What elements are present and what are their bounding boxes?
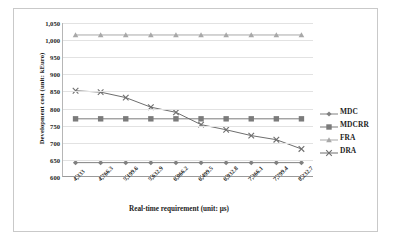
y-tick-label: 600 <box>26 174 60 181</box>
y-tick-label: 900 <box>26 71 60 78</box>
series-fra <box>73 32 305 37</box>
data-point-marker <box>299 146 305 152</box>
y-tick-label: 950 <box>26 54 60 61</box>
legend-item-mdcrr[interactable]: MDCRR <box>319 118 381 131</box>
y-tick-label: 1,050 <box>26 20 60 27</box>
y-tick-label: 650 <box>26 156 60 163</box>
plot-area <box>62 23 313 177</box>
y-tick-label: 700 <box>26 139 60 146</box>
y-tick-label: 1,000 <box>26 37 60 44</box>
data-point-marker <box>326 111 331 116</box>
legend-item-dra[interactable]: DRA <box>319 144 381 157</box>
legend-item-mdc[interactable]: MDC <box>319 105 381 118</box>
chart-frame: Development cost (unit: kEuro) 600650700… <box>13 8 378 232</box>
gridline <box>63 126 313 127</box>
data-point-marker <box>198 116 203 121</box>
legend-marker-icon <box>319 145 339 157</box>
series-canvas <box>63 23 314 177</box>
x-axis-title: Real-time requirement (unit: μs) <box>54 205 304 213</box>
series-line <box>76 91 302 149</box>
legend-label: MDCRR <box>340 120 369 129</box>
gridline <box>63 40 313 41</box>
legend-label: FRA <box>340 133 356 142</box>
data-point-marker <box>148 116 153 121</box>
data-point-marker <box>73 116 78 121</box>
y-tick-label: 750 <box>26 122 60 129</box>
gridline <box>63 23 313 24</box>
legend-label: DRA <box>340 146 356 155</box>
legend-marker-icon <box>319 119 339 131</box>
y-axis-tick-labels: 6006507007508008509009501,0001,050 <box>26 23 60 177</box>
data-point-marker <box>249 116 254 121</box>
gridline <box>63 160 313 161</box>
data-point-marker <box>274 116 279 121</box>
data-point-marker <box>299 116 304 121</box>
data-point-marker <box>123 116 128 121</box>
data-point-marker <box>98 116 103 121</box>
data-point-marker <box>326 124 331 129</box>
chart-legend: MDCMDCRRFRADRA <box>319 105 381 157</box>
legend-marker-icon <box>319 132 339 144</box>
data-point-marker <box>173 116 178 121</box>
y-tick-label: 800 <box>26 105 60 112</box>
legend-marker-icon <box>319 106 339 118</box>
gridline <box>63 143 313 144</box>
legend-item-fra[interactable]: FRA <box>319 131 381 144</box>
gridline <box>63 57 313 58</box>
data-point-marker <box>223 116 228 121</box>
gridline <box>63 91 313 92</box>
y-tick-label: 850 <box>26 88 60 95</box>
legend-label: MDC <box>340 107 358 116</box>
gridline <box>63 109 313 110</box>
gridline <box>63 74 313 75</box>
x-axis-tick-labels: 4,3334,766.35,199.65,632.96,066.26,499.5… <box>62 178 313 208</box>
